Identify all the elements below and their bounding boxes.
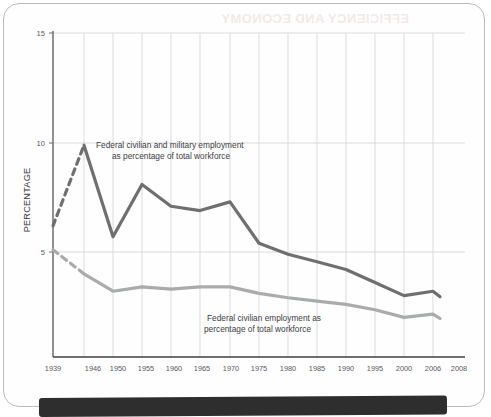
figure-root: EFFICIENCY AND ECONOMY [0, 0, 491, 417]
x-tick-label-1985: 1985 [309, 364, 325, 373]
y-tick-label-5: 5 [41, 248, 45, 257]
x-tick-label-1946: 1946 [85, 364, 101, 373]
y-axis-title: PERCENTAGE [22, 168, 32, 233]
caption-band [39, 396, 447, 417]
series-line-federal-total [84, 145, 440, 297]
x-tick-label-2006: 2006 [425, 364, 441, 373]
line-chart: 15 10 5 PERCENTAGE 1939 1946 1950 1955 1… [0, 0, 491, 417]
series-line-federal-total-dashed [53, 145, 84, 226]
x-tick-label-1965: 1965 [194, 364, 210, 373]
series-line-federal-civilian [84, 274, 440, 319]
y-tick-label-10: 10 [37, 139, 45, 148]
y-tick-label-15: 15 [37, 29, 45, 38]
annotation-civilian-line2: percentage of total workforce [204, 324, 311, 334]
x-tick-label-1950: 1950 [110, 364, 126, 373]
annotation-total-line1: Federal civilian and military employment [96, 140, 244, 150]
annotation-civilian-line1: Federal civilian employment as [207, 313, 321, 323]
x-tick-label-1980: 1980 [280, 364, 296, 373]
annotation-total-line2: as percentage of total workforce [112, 151, 230, 161]
x-tick-label-2008: 2008 [451, 364, 467, 373]
x-tick-label-1975: 1975 [251, 364, 267, 373]
x-tick-label-2000: 2000 [396, 364, 412, 373]
x-tick-label-1990: 1990 [338, 364, 354, 373]
series-line-federal-civilian-dashed [53, 250, 84, 274]
x-tick-label-1955: 1955 [138, 364, 154, 373]
x-tick-label-1995: 1995 [367, 364, 383, 373]
x-tick-label-1970: 1970 [223, 364, 239, 373]
x-tick-label-1939: 1939 [45, 364, 61, 373]
x-tick-label-1960: 1960 [166, 364, 182, 373]
